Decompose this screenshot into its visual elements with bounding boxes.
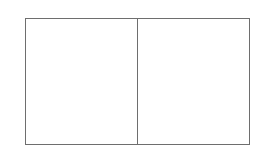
figure-canvas (0, 0, 260, 151)
two-panel-frame (25, 18, 250, 145)
panel-right-content (138, 19, 249, 144)
panel-right (138, 19, 249, 144)
panel-left (26, 19, 137, 144)
panel-left-content (26, 19, 137, 144)
